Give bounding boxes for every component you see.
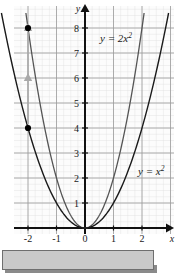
y-axis-label: y [75,3,81,14]
x-tick-label: -1 [52,233,60,244]
y-tick-label: 1 [74,198,79,209]
y-tick-label: 8 [74,23,79,34]
curve-label-upper: y = 2x2 [99,31,132,44]
bottom-toolbar-strip[interactable] [2,250,154,270]
x-tick-label: 0 [83,233,88,244]
y-tick-label: 3 [74,148,79,159]
plot-panel-background [14,6,174,234]
y-tick-label: 4 [74,123,79,134]
y-tick-label: 2 [74,173,79,184]
x-axis-label: x [169,233,175,244]
x-tick-label: -2 [24,233,32,244]
x-axis-tick-labels: -2-1012 [24,233,145,244]
y-tick-label: 7 [74,48,79,59]
x-tick-label: 2 [140,233,145,244]
y-tick-label: 5 [74,98,79,109]
curve-label-lower: y = x2 [137,164,165,177]
x-tick-label: 1 [111,233,116,244]
y-tick-label: 6 [74,73,79,84]
